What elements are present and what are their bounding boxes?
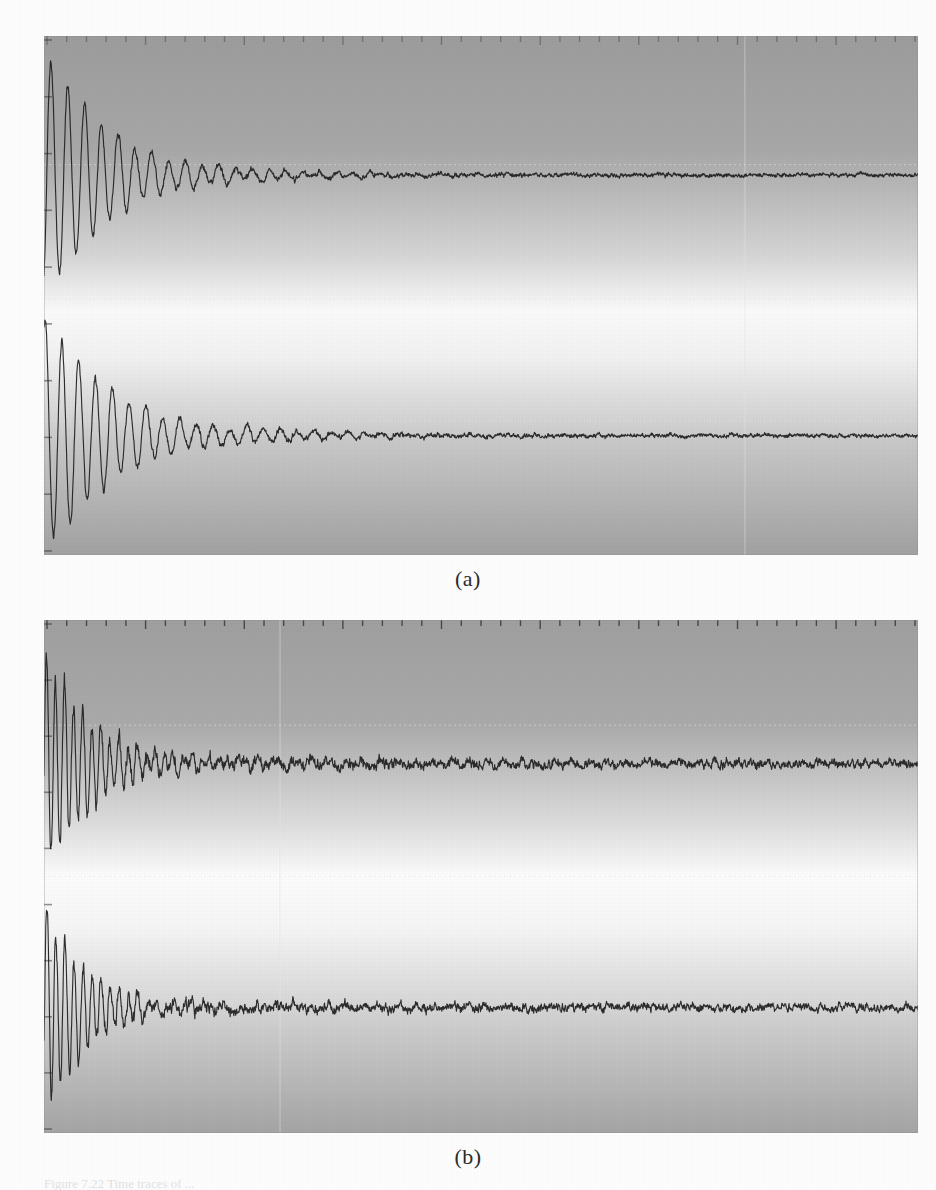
oscilloscope-panel-a	[44, 36, 918, 555]
figure-caption: Figure 7.22 Time traces of ...	[44, 1176, 904, 1190]
panel-b-plot	[44, 620, 918, 1133]
subcaption-b: (b)	[0, 1144, 936, 1170]
figure-container: (a) (b) Figure 7.22 Time traces of ...	[0, 0, 936, 1190]
panel-a-plot	[44, 36, 918, 555]
subcaption-a: (a)	[0, 566, 936, 592]
panel-background	[44, 36, 918, 555]
oscilloscope-panel-b	[44, 620, 918, 1133]
